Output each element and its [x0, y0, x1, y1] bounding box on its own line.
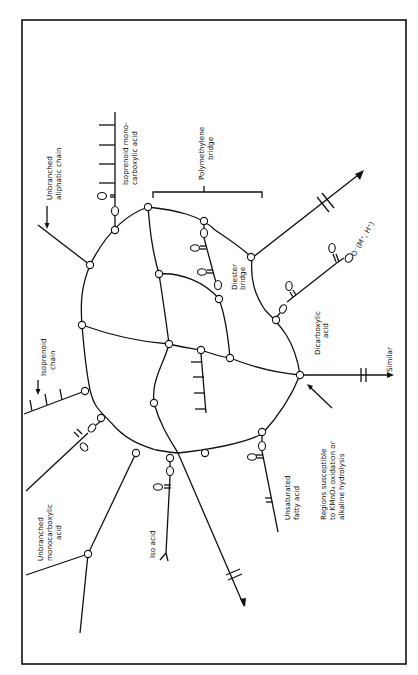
inner-isoprenoid-ticks	[191, 354, 206, 413]
lower-chain	[178, 453, 246, 607]
label-iso-acid: Iso acid	[148, 531, 157, 558]
svg-text:Polymethylene: Polymethylene	[197, 126, 206, 180]
svg-text:aliphatic chain: aliphatic chain	[54, 148, 63, 200]
outer-ring	[81, 207, 300, 453]
svg-text:to KMnO₄ oxidation or: to KMnO₄ oxidation or	[328, 441, 337, 520]
svg-text:acid: acid	[321, 323, 330, 338]
label-diester-bridge: Diester bridge	[230, 264, 247, 290]
svg-text:carboxylic acid: carboxylic acid	[130, 131, 139, 185]
svg-text:Unsaturated: Unsaturated	[283, 475, 292, 520]
label-unsaturated-fatty-acid: Unsaturated fatty acid	[283, 475, 301, 520]
label-dicarboxylic-acid: Dicarboxylic acid	[313, 311, 330, 355]
similar-label: Similar	[385, 347, 394, 372]
aliphatic-arrow-icon	[45, 206, 50, 229]
svg-text:Iso acid: Iso acid	[148, 531, 157, 558]
label-isoprenoid-chain: Isoprenoid chain	[39, 338, 57, 376]
label-unbranched-monocarboxylic: Unbranched monocarboxylic acid	[36, 504, 63, 561]
svg-text:acid: acid	[54, 525, 63, 540]
svg-text:alkaline hydrolysis: alkaline hydrolysis	[337, 453, 346, 520]
label-unbranched-aliphatic: Unbranched aliphatic chain	[45, 148, 63, 200]
diester-bridge	[191, 223, 222, 290]
figure-border	[22, 20, 406, 664]
unbranched-aliphatic-chain	[38, 225, 90, 265]
carboxylate-label: O⁻(M⁺, H⁺)	[349, 220, 376, 258]
label-isoprenoid-monocarboxylic: Isoprenoid mono- carboxylic acid	[121, 122, 139, 185]
polymethylene-brace	[153, 186, 262, 198]
isoprenoid-monocarboxylic-acid	[98, 112, 119, 228]
carboxylate-chain	[276, 244, 354, 319]
svg-text:Isoprenoid mono-: Isoprenoid mono-	[121, 122, 130, 185]
network-structure-diagram: O⁻(M⁺, H⁺) Similar	[0, 0, 418, 675]
isoprenoid-chain	[24, 380, 85, 414]
svg-text:chain: chain	[48, 351, 57, 370]
label-polymethylene-bridge: Polymethylene bridge	[197, 126, 215, 180]
inner-bonds	[82, 207, 300, 453]
svg-text:fatty acid: fatty acid	[292, 486, 301, 520]
unbranched-monocarboxylic-ester	[26, 421, 101, 491]
svg-text:bridge: bridge	[238, 266, 247, 290]
svg-text:Unbranched: Unbranched	[45, 156, 54, 200]
regions-arrow-icon	[307, 384, 332, 408]
similar-chain	[300, 368, 394, 382]
label-regions-susceptible: Regions susceptible to KMnO₄ oxidation o…	[319, 441, 346, 520]
upper-right-chain	[252, 170, 364, 258]
svg-text:bridge: bridge	[206, 136, 215, 160]
svg-text:Regions susceptible: Regions susceptible	[319, 448, 328, 520]
svg-text:Unbranched: Unbranched	[36, 517, 45, 561]
svg-text:monocarboxylic: monocarboxylic	[45, 504, 54, 561]
unsaturated-fatty-acid	[248, 436, 279, 532]
svg-text:Isoprenoid: Isoprenoid	[39, 338, 48, 376]
